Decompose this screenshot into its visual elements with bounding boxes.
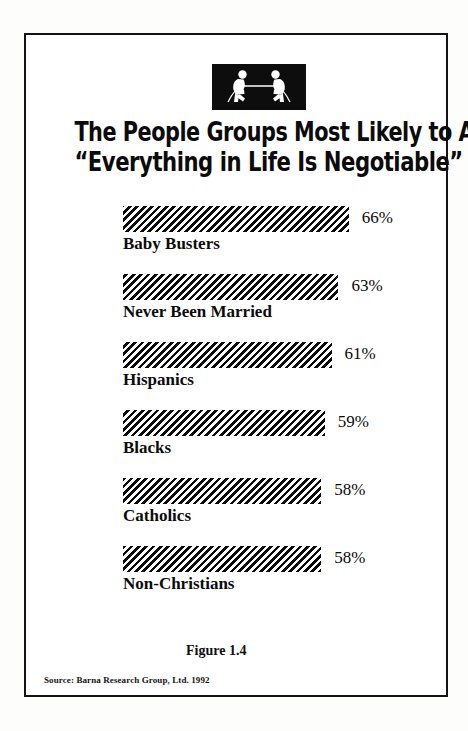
bar-category-label: Hispanics	[123, 370, 194, 390]
bar-row: 58%Catholics	[26, 474, 446, 542]
figure-page: The People Groups Most Likely to Agree t…	[0, 0, 468, 731]
page-title: The People Groups Most Likely to Agree t…	[34, 117, 438, 177]
bar-category-label: Never Been Married	[123, 302, 272, 322]
tug-of-war-icon	[212, 64, 306, 110]
bar-value-label: 61%	[345, 344, 376, 364]
bar-category-label: Blacks	[123, 438, 171, 458]
bar-category-label: Catholics	[123, 506, 191, 526]
figure-caption: Figure 1.4	[186, 643, 246, 659]
bar-value-label: 59%	[338, 412, 369, 432]
bar	[123, 546, 321, 572]
bar-row: 63%Never Been Married	[26, 270, 446, 338]
source-note: Source: Barna Research Group, Ltd. 1992	[44, 675, 210, 685]
title-line-2: “Everything in Life Is Negotiable”	[74, 147, 397, 177]
bar	[123, 478, 321, 504]
bar-row: 59%Blacks	[26, 406, 446, 474]
bar	[123, 410, 325, 436]
bar-category-label: Baby Busters	[123, 234, 220, 254]
bar-value-label: 66%	[362, 208, 393, 228]
bar-row: 66%Baby Busters	[26, 202, 446, 270]
bar-row: 58%Non-Christians	[26, 542, 446, 610]
bar	[123, 342, 332, 368]
bar	[123, 206, 349, 232]
bar	[123, 274, 338, 300]
bar-value-label: 58%	[334, 480, 365, 500]
bar-category-label: Non-Christians	[123, 574, 234, 594]
bar-value-label: 63%	[351, 276, 382, 296]
page-border-frame: The People Groups Most Likely to Agree t…	[24, 33, 448, 697]
title-line-1: The People Groups Most Likely to Agree t…	[74, 117, 397, 147]
bar-value-label: 58%	[334, 548, 365, 568]
bar-chart: 66%Baby Busters63%Never Been Married61%H…	[26, 202, 446, 602]
bar-row: 61%Hispanics	[26, 338, 446, 406]
